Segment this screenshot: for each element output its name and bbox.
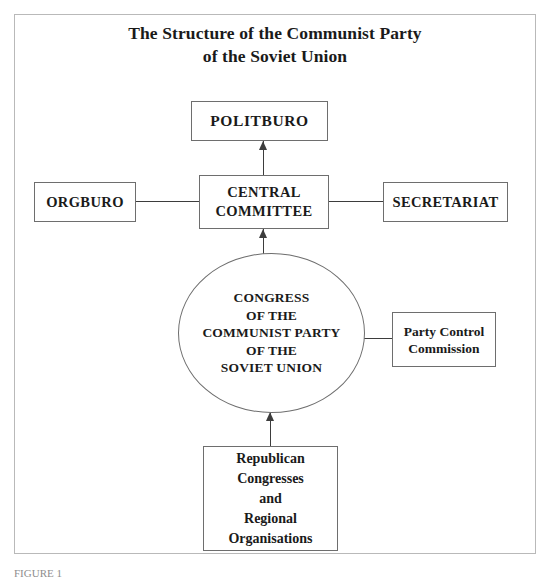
- figure-caption: FIGURE 1: [14, 567, 541, 577]
- node-central-committee: CENTRAL COMMITTEE: [199, 175, 329, 229]
- node-central-committee-line-2: COMMITTEE: [200, 202, 328, 221]
- node-congress-line-4: OF THE: [179, 342, 364, 360]
- node-congress-line-2: OF THE: [179, 307, 364, 325]
- node-politburo: POLITBURO: [191, 101, 328, 141]
- node-party-control-line-2: Commission: [393, 340, 495, 357]
- arrowhead-to-central-committee: [259, 229, 267, 238]
- node-secretariat: SECRETARIAT: [383, 182, 508, 222]
- node-orgburo-line-1: ORGBURO: [35, 194, 135, 211]
- connector-orgburo-to-central-committee: [136, 201, 199, 202]
- node-republican-line-3: and: [204, 489, 337, 509]
- arrowhead-to-congress: [266, 412, 274, 421]
- node-republican-line-2: Congresses: [204, 469, 337, 489]
- node-congress-line-5: SOVIET UNION: [179, 359, 364, 377]
- connector-central-committee-to-secretariat: [329, 201, 383, 202]
- node-politburo-line-1: POLITBURO: [192, 112, 327, 130]
- page-canvas: The Structure of the Communist Party of …: [0, 0, 555, 577]
- node-congress-line-1: CONGRESS: [179, 289, 364, 307]
- node-party-control-line-1: Party Control: [393, 323, 495, 340]
- page-title-line-2: of the Soviet Union: [14, 45, 536, 68]
- node-secretariat-line-1: SECRETARIAT: [384, 194, 507, 211]
- page-title: The Structure of the Communist Party of …: [14, 22, 536, 68]
- node-republican-congresses-and-regional-organisations: Republican Congresses and Regional Organ…: [203, 446, 338, 551]
- node-orgburo: ORGBURO: [34, 182, 136, 222]
- node-congress-of-the-communist-party: CONGRESS OF THE COMMUNIST PARTY OF THE S…: [178, 253, 365, 413]
- node-congress-line-3: COMMUNIST PARTY: [179, 324, 364, 342]
- arrowhead-to-politburo: [259, 141, 267, 150]
- node-party-control-commission: Party Control Commission: [392, 312, 496, 367]
- node-central-committee-line-1: CENTRAL: [200, 183, 328, 202]
- node-republican-line-4: Regional: [204, 509, 337, 529]
- page-title-line-1: The Structure of the Communist Party: [14, 22, 536, 45]
- node-republican-line-5: Organisations: [204, 529, 337, 549]
- node-republican-line-1: Republican: [204, 449, 337, 469]
